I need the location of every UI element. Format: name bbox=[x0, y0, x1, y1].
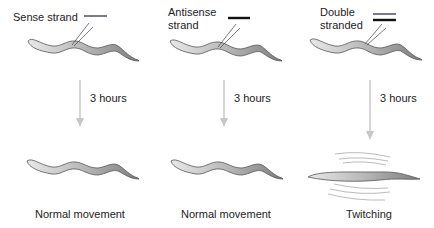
needle-icon bbox=[218, 24, 236, 47]
needle-icon bbox=[220, 28, 240, 48]
time-label: 3 hours bbox=[234, 92, 271, 104]
worm-twitching-icon bbox=[308, 172, 420, 181]
outcome-label: Normal movement bbox=[10, 208, 150, 220]
time-label: 3 hours bbox=[380, 92, 417, 104]
worm-before-icon bbox=[28, 39, 139, 61]
worm-before-icon bbox=[170, 40, 282, 61]
outcome-label: Twitching bbox=[299, 208, 434, 220]
double-stranded-label-line1: Double bbox=[320, 6, 355, 19]
down-arrow-icon bbox=[366, 80, 374, 140]
worm-after-icon bbox=[171, 160, 283, 179]
time-label: 3 hours bbox=[90, 92, 127, 104]
diagram-canvas bbox=[0, 0, 434, 228]
antisense-strand-label-line1: Antisense bbox=[168, 6, 216, 19]
down-arrow-icon bbox=[76, 80, 84, 127]
double-strand-icon bbox=[373, 14, 396, 20]
antisense-strand-label-line2: strand bbox=[168, 19, 199, 32]
outcome-label: Normal movement bbox=[156, 208, 296, 220]
worm-before-icon bbox=[310, 39, 422, 60]
sense-strand-label: Sense strand bbox=[13, 11, 78, 24]
double-stranded-label-line2: stranded bbox=[320, 19, 363, 32]
panel-double bbox=[308, 14, 422, 200]
worm-after-icon bbox=[27, 160, 139, 179]
down-arrow-icon bbox=[220, 80, 228, 127]
